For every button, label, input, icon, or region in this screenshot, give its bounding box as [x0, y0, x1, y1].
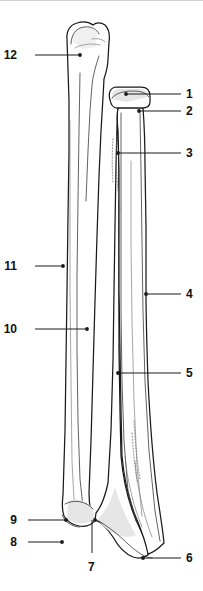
- leader-dot-12: [78, 53, 82, 57]
- ulna-outline: [62, 22, 109, 526]
- label-number-1[interactable]: 1: [186, 88, 193, 100]
- label-number-4[interactable]: 4: [186, 288, 193, 300]
- label-number-6[interactable]: 6: [186, 552, 193, 564]
- label-number-7[interactable]: 7: [88, 561, 95, 573]
- leader-dot-4: [144, 292, 148, 296]
- leader-dot-5: [116, 371, 120, 375]
- leader-lines-group: [28, 53, 181, 560]
- leader-dot-9: [64, 518, 68, 522]
- leader-dot-8: [60, 540, 64, 544]
- ulna-bone: [62, 22, 109, 527]
- label-number-9[interactable]: 9: [10, 514, 17, 526]
- label-number-2[interactable]: 2: [186, 105, 193, 117]
- leader-dot-11: [61, 264, 65, 268]
- leader-dot-2: [137, 109, 141, 113]
- label-number-8[interactable]: 8: [10, 536, 17, 548]
- radial-tuberosity-stipple-2: [112, 139, 113, 182]
- label-number-10[interactable]: 10: [4, 323, 17, 335]
- label-number-5[interactable]: 5: [186, 367, 193, 379]
- label-number-11[interactable]: 11: [4, 260, 17, 272]
- ulna-head-shading: [67, 500, 95, 524]
- radius-bone: [95, 87, 164, 558]
- label-number-3[interactable]: 3: [186, 147, 193, 159]
- anatomy-figure: 123456789101112: [0, 0, 203, 591]
- leader-dot-6: [141, 556, 145, 560]
- leader-dot-1: [124, 92, 128, 96]
- label-number-12[interactable]: 12: [4, 49, 17, 61]
- leader-dot-10: [85, 327, 89, 331]
- leader-dot-7: [93, 518, 97, 522]
- leader-dot-3: [116, 151, 120, 155]
- bone-illustration: [0, 1, 203, 591]
